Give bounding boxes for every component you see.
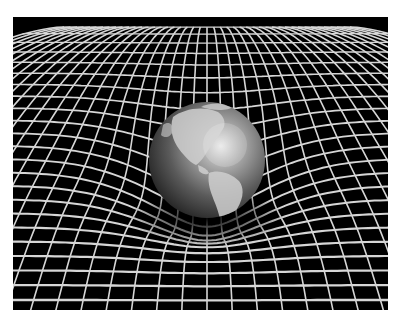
spacetime-illustration <box>13 17 388 310</box>
grid-canvas <box>13 17 388 310</box>
